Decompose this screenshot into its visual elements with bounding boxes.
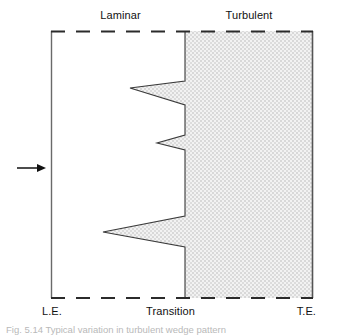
figure-caption: Fig. 5.14 Typical variation in turbulent… [0, 324, 341, 335]
transition-label: Transition [0, 305, 341, 318]
transition-front-line [103, 31, 185, 298]
turbulent-region-fill [103, 31, 313, 298]
trailing-edge-label: T.E. [297, 305, 316, 318]
flow-arrow-icon [17, 164, 46, 172]
